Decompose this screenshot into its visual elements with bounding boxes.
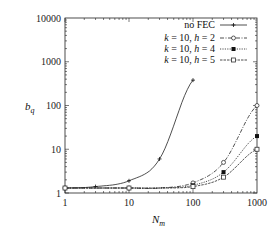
x-tick-label: 1000 — [247, 197, 267, 208]
y-tick-label: 10 — [51, 144, 61, 155]
x-axis-tick-labels: 1101001000 — [63, 197, 268, 208]
plot-frame — [65, 18, 257, 193]
x-tick-label: 1 — [63, 197, 68, 208]
legend-swatches — [220, 23, 247, 62]
legend-entry-h2: k = 10, h = 2 — [164, 32, 215, 43]
x-tick-label: 10 — [124, 197, 134, 208]
y-axis-title: bq — [25, 100, 35, 115]
y-tick-label: 1 — [56, 188, 61, 199]
y-tick-label: 1000 — [41, 56, 61, 67]
chart: 110100100010000 1101001000 bq Nm no FEC … — [0, 0, 279, 233]
series-1 — [63, 104, 259, 191]
svg-text:k = 10, h = 2: k = 10, h = 2 — [164, 32, 215, 43]
legend-entry-h4: k = 10, h = 4 — [164, 43, 215, 54]
series-layer — [63, 78, 259, 190]
legend: no FEC k = 10, h = 2 k = 10, h = 4 k = 1… — [164, 19, 247, 65]
svg-text:k = 10, h = 5: k = 10, h = 5 — [164, 54, 215, 65]
series-2 — [63, 134, 259, 190]
axis-ticks — [65, 18, 257, 193]
y-tick-label: 10000 — [36, 13, 61, 24]
series-0 — [63, 78, 195, 190]
svg-text:k = 10, h = 4: k = 10, h = 4 — [164, 43, 215, 54]
legend-entry-h5: k = 10, h = 5 — [164, 54, 215, 65]
legend-label-no-fec: no FEC — [184, 19, 215, 30]
x-axis-title: Nm — [151, 213, 165, 228]
y-tick-label: 100 — [46, 100, 61, 111]
y-axis-tick-labels: 110100100010000 — [36, 13, 61, 199]
x-tick-label: 100 — [186, 197, 201, 208]
